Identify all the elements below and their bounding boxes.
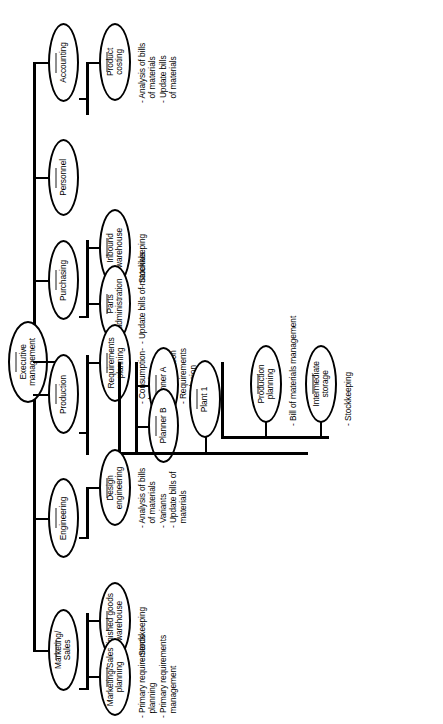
node-divider xyxy=(257,374,259,394)
node-label: Product costing xyxy=(106,48,124,76)
node-label: Marketing/ Sales xyxy=(55,631,73,669)
node-label: Production planning xyxy=(257,364,275,403)
stub-design-engineering xyxy=(86,487,100,489)
marketing-sub-spine xyxy=(86,613,89,690)
node-design-engineering[interactable]: Design engineering xyxy=(99,449,131,526)
node-label: Parts administration xyxy=(106,278,124,329)
stub-planner-a xyxy=(135,385,149,387)
node-label: Requirements planning xyxy=(106,338,124,389)
engineering-sub-spine xyxy=(86,487,89,539)
node-requirements-planning[interactable]: Requirements planning xyxy=(99,324,131,402)
node-divider xyxy=(106,611,108,631)
plant1-sub-spine xyxy=(221,362,224,438)
marketing-sub-connector xyxy=(79,688,88,690)
node-divider xyxy=(15,352,17,372)
stub-planner-b xyxy=(135,426,149,428)
accounting-sub-spine xyxy=(86,62,89,115)
node-label: Inbound warehouse xyxy=(106,227,124,267)
node-engineering[interactable]: Engineering xyxy=(48,478,79,558)
node-divider xyxy=(106,353,108,373)
node-label: Accounting xyxy=(59,42,68,82)
node-label: Production xyxy=(59,374,68,413)
node-divider xyxy=(106,478,108,498)
node-plant-1[interactable]: Plant 1 xyxy=(189,360,221,438)
root-spine-connector xyxy=(33,361,47,363)
stub-inbound-warehouse xyxy=(86,247,100,249)
node-divider xyxy=(312,374,314,394)
node-divider xyxy=(55,53,57,73)
node-marketing-sales[interactable]: Marketing/ Sales xyxy=(48,609,79,691)
node-product-costing[interactable]: Product costing xyxy=(99,23,131,101)
accounting-sub-connector xyxy=(79,98,88,100)
node-purchasing[interactable]: Purchasing xyxy=(48,240,79,320)
node-personnel[interactable]: Personnel xyxy=(48,139,79,216)
node-label: Design engineering xyxy=(106,466,124,509)
node-label: Marketing/Sales planning xyxy=(106,648,124,707)
node-divider xyxy=(155,416,157,436)
node-accounting[interactable]: Accounting xyxy=(48,23,79,102)
node-divider xyxy=(55,384,57,404)
stub-intermediate-storage xyxy=(320,422,322,438)
node-label: Engineering xyxy=(59,496,68,540)
node-intermediate-storage[interactable]: Intermediate storage xyxy=(305,345,337,423)
functions-production-planning: - Bill of materials management xyxy=(288,316,298,426)
functions-parts-administration: - Update bills of materials xyxy=(137,252,147,344)
node-divider xyxy=(106,294,108,314)
stub-plant-1-vertical xyxy=(205,437,207,453)
stub-finished-goods-warehouse xyxy=(86,620,100,622)
node-production-planning[interactable]: Production planning xyxy=(250,345,282,423)
functions-product-costing: - Analysis of bills of materials - Updat… xyxy=(137,43,178,103)
functions-intermediate-storage: - Stockkeeping xyxy=(343,372,353,426)
node-label: Personnel xyxy=(59,159,68,196)
node-divider xyxy=(196,389,198,409)
stub-marketing-sales-planning xyxy=(86,676,100,678)
stub-production-planning xyxy=(265,422,267,438)
diagram-canvas: Executive management Accounting Personne… xyxy=(0,0,443,724)
production-long-spine-horizontal xyxy=(118,452,308,455)
production-sub-spine xyxy=(86,355,89,455)
planner-bar xyxy=(135,362,138,455)
node-label: Planner B xyxy=(159,408,168,444)
node-production[interactable]: Production xyxy=(48,354,79,434)
production-sub-connector xyxy=(79,432,88,434)
node-divider xyxy=(55,508,57,528)
node-divider xyxy=(106,667,108,687)
purchasing-sub-spine xyxy=(86,240,89,318)
node-divider xyxy=(106,238,108,258)
node-label: Intermediate storage xyxy=(312,361,330,406)
stub-parts-administration xyxy=(86,303,100,305)
node-divider xyxy=(106,52,108,72)
node-label: Plant 1 xyxy=(201,386,210,411)
functions-marketing-sales-planning: - Primary requirements planning - Primar… xyxy=(137,635,178,718)
engineering-sub-connector xyxy=(79,537,88,539)
functions-design-engineering: - Analysis of bills of materials - Varia… xyxy=(137,468,188,528)
plant1-sub-bar xyxy=(221,436,329,439)
node-label: Purchasing xyxy=(59,260,68,301)
node-divider xyxy=(55,168,57,188)
stub-requirements-planning xyxy=(86,362,100,364)
stub-product-costing xyxy=(86,62,100,64)
node-divider xyxy=(55,270,57,290)
purchasing-sub-connector xyxy=(79,316,88,318)
production-long-spine xyxy=(118,362,121,454)
node-divider xyxy=(55,640,57,660)
node-marketing-sales-planning[interactable]: Marketing/Sales planning xyxy=(99,638,131,716)
